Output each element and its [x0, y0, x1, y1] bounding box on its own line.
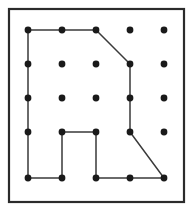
lattice-dot	[161, 129, 168, 136]
lattice-dot	[127, 175, 134, 182]
lattice-dot	[59, 27, 66, 34]
lattice-dot	[59, 129, 66, 136]
lattice-dot	[59, 95, 66, 102]
lattice-dot	[25, 129, 32, 136]
lattice-dot	[59, 61, 66, 68]
lattice-dot	[127, 27, 134, 34]
lattice-dot	[127, 95, 134, 102]
lattice-dot	[25, 175, 32, 182]
lattice-dot	[59, 175, 66, 182]
lattice-dot	[161, 175, 168, 182]
geoboard-canvas	[0, 0, 193, 211]
lattice-dot	[25, 27, 32, 34]
lattice-dot	[127, 129, 134, 136]
geoboard-figure	[0, 0, 193, 211]
lattice-dot	[25, 95, 32, 102]
lattice-dot	[93, 129, 100, 136]
lattice-dot	[93, 27, 100, 34]
lattice-dot	[127, 61, 134, 68]
lattice-dot	[93, 95, 100, 102]
lattice-dot	[93, 175, 100, 182]
lattice-dot	[161, 27, 168, 34]
lattice-dot	[161, 95, 168, 102]
lattice-dot	[25, 61, 32, 68]
lattice-dot	[161, 61, 168, 68]
lattice-dot	[93, 61, 100, 68]
